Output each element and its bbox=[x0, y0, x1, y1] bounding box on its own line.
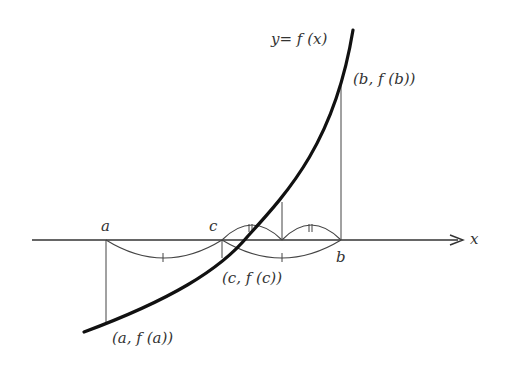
curve-label: y= f (x) bbox=[271, 32, 327, 47]
point-a-label: a bbox=[101, 219, 110, 234]
brace-a-c bbox=[106, 240, 222, 258]
point-fa-label: (a, f (a)) bbox=[112, 331, 173, 346]
point-fb-label: (b, f (b)) bbox=[353, 72, 415, 87]
point-b-label: b bbox=[336, 250, 346, 265]
diagram-canvas bbox=[0, 0, 507, 374]
bisection-diagram: y= f (x) (b, f (b)) a c b x (c, f (c)) (… bbox=[0, 0, 507, 374]
point-c-label: c bbox=[209, 219, 217, 234]
point-fc-label: (c, f (c)) bbox=[222, 271, 282, 286]
function-curve bbox=[84, 30, 353, 332]
x-axis-label: x bbox=[470, 232, 478, 247]
